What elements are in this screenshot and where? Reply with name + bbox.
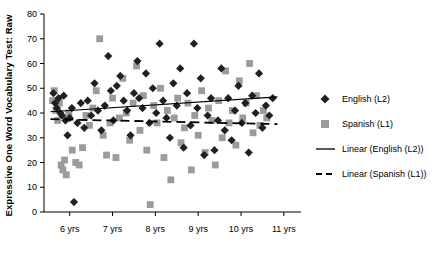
y-tick-label: 40 <box>27 108 37 118</box>
data-point-english <box>63 131 71 139</box>
data-point-spanish <box>157 85 164 92</box>
data-point-spanish <box>63 171 70 178</box>
data-point-english <box>70 198 78 206</box>
data-point-spanish <box>167 176 174 183</box>
data-points-english <box>49 40 277 207</box>
data-point-english <box>183 89 191 97</box>
data-point-english <box>166 134 174 142</box>
data-point-english <box>224 94 232 102</box>
data-point-spanish <box>61 157 68 164</box>
x-tick-label: 8 yrs <box>146 224 166 234</box>
data-point-english <box>156 40 164 48</box>
x-tick-label: 6 yrs <box>60 224 80 234</box>
y-tick-label: 0 <box>32 207 37 217</box>
legend-label-0: English (L2) <box>342 94 390 104</box>
data-point-english <box>130 89 138 97</box>
y-axis-label: Expressive One Word Vocabulary Test: Raw <box>0 0 18 230</box>
data-point-spanish <box>96 35 103 42</box>
y-tick-label: 80 <box>27 9 37 19</box>
data-point-spanish <box>154 120 161 127</box>
data-point-spanish <box>164 107 171 114</box>
y-tick-label: 60 <box>27 59 37 69</box>
data-point-english <box>142 69 150 77</box>
data-point-english <box>176 64 184 72</box>
x-tick-label: 7 yrs <box>103 224 123 234</box>
y-tick-label: 50 <box>27 83 37 93</box>
data-point-spanish <box>188 167 195 174</box>
data-point-spanish <box>54 117 61 124</box>
x-axis-ticks: 6 yrs7 yrs8 yrs9 yrs10 yrs11 yrs <box>60 212 296 234</box>
data-point-english <box>90 79 98 87</box>
data-point-english <box>193 104 201 112</box>
data-point-english <box>107 87 115 95</box>
x-tick-label: 10 yrs <box>229 224 254 234</box>
data-point-english <box>113 82 121 90</box>
data-point-english <box>221 126 229 134</box>
data-point-spanish <box>93 87 100 94</box>
chart-figure: Expressive One Word Vocabulary Test: Raw… <box>0 0 441 254</box>
scatter-plot-svg: 01020304050607080 6 yrs7 yrs8 yrs9 yrs10… <box>18 4 441 254</box>
data-point-english <box>149 84 157 92</box>
data-point-spanish <box>69 147 76 154</box>
data-point-english <box>197 74 205 82</box>
legend-marker-1 <box>321 120 329 128</box>
data-point-spanish <box>79 144 86 151</box>
data-point-spanish <box>198 87 205 94</box>
y-tick-label: 30 <box>27 133 37 143</box>
data-point-english <box>251 109 259 117</box>
data-point-spanish <box>76 162 83 169</box>
data-point-english <box>210 146 218 154</box>
data-point-english <box>77 99 85 107</box>
data-point-spanish <box>103 152 110 159</box>
data-point-english <box>255 69 263 77</box>
x-tick-label: 9 yrs <box>188 224 208 234</box>
y-tick-label: 70 <box>27 34 37 44</box>
data-point-spanish <box>147 201 154 208</box>
data-point-english <box>159 97 167 105</box>
y-axis-ticks: 01020304050607080 <box>27 9 44 217</box>
data-point-spanish <box>137 127 144 134</box>
y-tick-label: 10 <box>27 182 37 192</box>
data-point-spanish <box>250 129 257 136</box>
data-point-spanish <box>171 115 178 122</box>
legend-marker-0 <box>321 95 330 104</box>
y-axis-label-text: Expressive One Word Vocabulary Test: Raw <box>4 14 15 216</box>
data-point-spanish <box>212 162 219 169</box>
plot-area-wrapper: 01020304050607080 6 yrs7 yrs8 yrs9 yrs10… <box>18 4 441 254</box>
data-point-english <box>152 109 160 117</box>
data-point-spanish <box>219 134 226 141</box>
data-point-spanish <box>174 95 181 102</box>
data-point-english <box>120 97 128 105</box>
data-point-spanish <box>205 105 212 112</box>
data-point-english <box>104 52 112 60</box>
data-point-english <box>169 79 177 87</box>
data-point-english <box>190 40 198 48</box>
data-point-english <box>145 119 153 127</box>
y-tick-label: 20 <box>27 158 37 168</box>
data-point-spanish <box>246 60 253 67</box>
data-point-spanish <box>130 100 137 107</box>
data-point-spanish <box>109 95 116 102</box>
chart-legend: English (L2)Spanish (L1)Linear (English … <box>316 94 427 179</box>
data-point-spanish <box>191 112 198 119</box>
legend-label-1: Spanish (L1) <box>342 119 393 129</box>
data-points-spanish <box>49 35 270 208</box>
legend-label-3: Linear (Spanish (L1)) <box>342 169 427 179</box>
data-point-english <box>245 149 253 157</box>
data-point-english <box>269 94 277 102</box>
data-point-spanish <box>232 142 239 149</box>
data-point-spanish <box>143 147 150 154</box>
data-point-spanish <box>195 132 202 139</box>
legend-label-2: Linear (English (L2)) <box>342 144 424 154</box>
data-point-spanish <box>161 154 168 161</box>
x-tick-label: 11 yrs <box>272 224 296 234</box>
data-point-english <box>173 101 181 109</box>
data-point-spanish <box>113 154 120 161</box>
data-point-english <box>84 97 92 105</box>
